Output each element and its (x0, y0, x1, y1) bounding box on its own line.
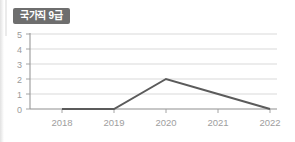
x-tick-label-2022: 2022 (259, 117, 280, 128)
y-tick-label-4: 4 (17, 45, 22, 55)
y-tick-label-5: 5 (17, 30, 22, 40)
x-tick-label-2020: 2020 (155, 117, 176, 128)
y-axis-ticks (26, 34, 30, 109)
x-tick-label-2021: 2021 (207, 117, 228, 128)
chart-title-label: 국가직 9급 (20, 11, 63, 21)
y-axis-labels: 5 4 3 2 1 0 (17, 30, 22, 115)
line-chart: 5 4 3 2 1 0 2018 2019 2020 2021 2022 (0, 28, 295, 142)
x-tick-label-2019: 2019 (103, 117, 124, 128)
y-tick-label-2: 2 (17, 75, 22, 85)
chart-title-badge: 국가직 9급 (13, 8, 70, 24)
gridlines (30, 34, 277, 94)
y-tick-label-3: 3 (17, 60, 22, 70)
y-tick-label-0: 0 (17, 105, 22, 115)
chart-canvas: 5 4 3 2 1 0 2018 2019 2020 2021 2022 (0, 28, 295, 142)
x-tick-label-2018: 2018 (51, 117, 72, 128)
x-axis-labels: 2018 2019 2020 2021 2022 (51, 117, 280, 128)
y-tick-label-1: 1 (17, 90, 22, 100)
